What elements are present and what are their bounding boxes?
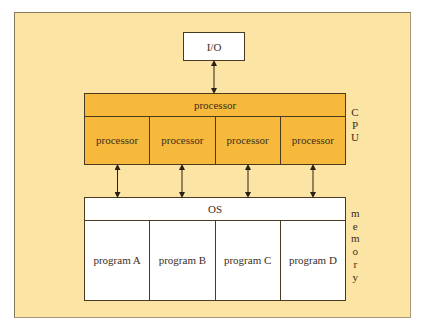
connection-arrows [0,0,425,332]
